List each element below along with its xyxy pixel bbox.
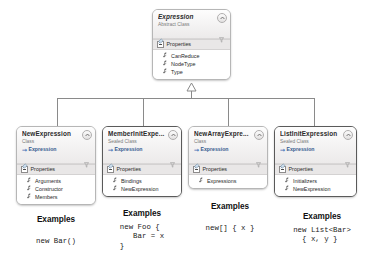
pin-icon[interactable] — [194, 155, 200, 173]
pin-icon[interactable] — [158, 30, 164, 48]
chevron-up-icon[interactable] — [217, 13, 227, 23]
class-toolbar — [158, 29, 226, 36]
base-type-label: Expression — [29, 146, 57, 153]
class-header: MemberInitExpe... Sealed Class ⇾ Express… — [103, 127, 181, 164]
base-type-label: Expression — [115, 146, 143, 153]
filter-icon[interactable] — [84, 154, 89, 172]
class-box-newexpression[interactable]: NewExpression Class ⇾ Expression Propert… — [16, 126, 96, 205]
base-type-row: ⇾ Expression — [194, 146, 263, 153]
chevron-up-icon[interactable] — [254, 130, 264, 140]
examples-newarrayexpression: Examples new[] { x } — [180, 202, 280, 234]
member-label: Members — [35, 193, 57, 201]
filter-icon[interactable] — [345, 154, 350, 172]
member-list: Bindings NewExpression — [103, 175, 181, 196]
base-type-label: Expression — [287, 146, 315, 153]
pin-icon[interactable] — [280, 155, 286, 173]
class-box-newarrayexpression[interactable]: NewArrayExpre... Class ⇾ Expression Prop… — [188, 126, 268, 189]
class-toolbar — [280, 154, 352, 161]
base-type-label: Expression — [201, 146, 229, 153]
pin-icon[interactable] — [108, 155, 114, 173]
class-kind: Sealed Class — [108, 139, 177, 146]
filter-icon[interactable] — [170, 154, 175, 172]
member-list: CanReduce NodeType Type — [153, 50, 230, 79]
wrench-icon — [162, 68, 168, 76]
wrench-icon — [162, 52, 168, 60]
wrench-icon — [26, 185, 32, 193]
chevron-up-icon[interactable] — [168, 130, 178, 140]
compartment-label: Properties — [289, 166, 314, 173]
wrench-icon — [162, 60, 168, 68]
member-label: NewExpression — [121, 185, 158, 193]
compartment-label: Properties — [117, 166, 142, 173]
member-label: Expressions — [207, 177, 236, 185]
chevron-up-icon[interactable] — [343, 130, 353, 140]
example-code: new List<Bar> { x, y } — [293, 226, 351, 245]
class-box-memberinitexpression[interactable]: MemberInitExpe... Sealed Class ⇾ Express… — [102, 126, 182, 197]
class-kind: Class — [22, 139, 91, 146]
wrench-icon — [284, 177, 290, 185]
class-box-expression[interactable]: Expression Abstract Class Properties Can… — [152, 9, 231, 80]
filter-icon[interactable] — [256, 154, 261, 172]
class-header: Expression Abstract Class — [153, 10, 230, 39]
member-item[interactable]: NewExpression — [284, 185, 352, 193]
class-toolbar — [194, 154, 263, 161]
member-label: Bindings — [121, 177, 142, 185]
member-item[interactable]: Initializers — [284, 177, 352, 185]
member-item[interactable]: NodeType — [162, 60, 226, 68]
member-label: NodeType — [171, 60, 196, 68]
examples-title: Examples — [6, 215, 106, 225]
examples-listinitexpression: Examples new List<Bar> { x, y } — [270, 212, 374, 245]
wrench-icon — [112, 185, 118, 193]
examples-title: Examples — [92, 209, 192, 219]
member-list: Expressions — [189, 175, 267, 188]
class-name: NewExpression — [22, 130, 91, 138]
examples-newexpression: Examples new Bar() — [6, 215, 106, 247]
example-code: new Foo { Bar = x } — [120, 223, 164, 251]
member-item[interactable]: NewExpression — [112, 185, 177, 193]
compartment-label: Properties — [31, 166, 56, 173]
pin-icon[interactable] — [22, 155, 28, 173]
wrench-icon — [112, 177, 118, 185]
class-toolbar — [22, 154, 91, 161]
member-label: Arguments — [35, 177, 61, 185]
base-type-row: ⇾ Expression — [280, 146, 352, 153]
class-kind: Sealed Class — [280, 139, 352, 146]
member-item[interactable]: CanReduce — [162, 52, 226, 60]
inheritance-arrow-icon: ⇾ — [280, 147, 285, 153]
base-type-row: ⇾ Expression — [108, 146, 177, 153]
member-label: Initializers — [293, 177, 317, 185]
inheritance-arrow-icon: ⇾ — [194, 147, 199, 153]
filter-icon[interactable] — [219, 29, 224, 47]
member-label: CanReduce — [171, 52, 199, 60]
member-label: NewExpression — [293, 185, 330, 193]
example-code: new[] { x } — [206, 224, 255, 233]
chevron-up-icon[interactable] — [82, 130, 92, 140]
base-type-row: ⇾ Expression — [22, 146, 91, 153]
examples-memberinitexpression: Examples new Foo { Bar = x } — [92, 209, 192, 252]
inheritance-arrow-icon: ⇾ — [22, 147, 27, 153]
inheritance-arrow-icon: ⇾ — [108, 147, 113, 153]
compartment-label: Properties — [203, 166, 228, 173]
member-list: Initializers NewExpression — [275, 175, 356, 196]
example-code: new Bar() — [36, 237, 76, 246]
member-item[interactable]: Bindings — [112, 177, 177, 185]
class-toolbar — [108, 154, 177, 161]
class-name: Expression — [158, 13, 226, 21]
compartment-properties[interactable]: Properties — [275, 164, 356, 175]
class-box-listinitexpression[interactable]: ListInitExpression Sealed Class ⇾ Expres… — [274, 126, 357, 197]
examples-title: Examples — [270, 212, 374, 222]
member-item[interactable]: Type — [162, 68, 226, 76]
member-item[interactable]: Expressions — [198, 177, 263, 185]
member-item[interactable]: Constructor — [26, 185, 91, 193]
member-label: Constructor — [35, 185, 63, 193]
wrench-icon — [26, 193, 32, 201]
member-label: Type — [171, 68, 183, 76]
member-item[interactable]: Arguments — [26, 177, 91, 185]
class-name: NewArrayExpre... — [194, 130, 263, 138]
wrench-icon — [26, 177, 32, 185]
class-header: NewArrayExpre... Class ⇾ Expression — [189, 127, 267, 164]
member-item[interactable]: Members — [26, 193, 91, 201]
diagram-canvas: Expression Abstract Class Properties Can… — [0, 0, 377, 270]
class-name: MemberInitExpe... — [108, 130, 177, 138]
wrench-icon — [198, 177, 204, 185]
